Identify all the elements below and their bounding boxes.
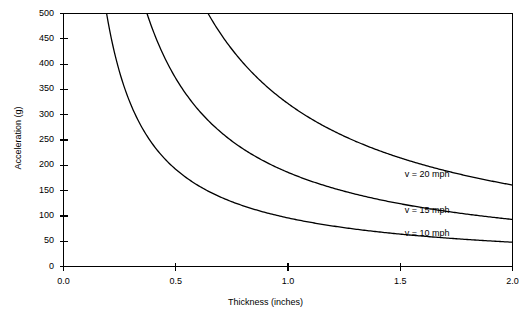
x-tick-label: 2.0 [493, 276, 531, 286]
series-label: v = 10 mph [405, 228, 450, 238]
y-tick-label: 0 [14, 261, 54, 271]
x-axis-title: Thickness (inches) [0, 297, 531, 307]
series-label: v = 15 mph [405, 205, 450, 215]
y-tick-label: 250 [14, 134, 54, 144]
y-tick-label: 400 [14, 58, 54, 68]
y-tick-label: 100 [14, 210, 54, 220]
acceleration-vs-thickness-chart: Acceleration (g) Thickness (inches) 0501… [0, 0, 531, 316]
y-tick-label: 350 [14, 83, 54, 93]
chart-background [0, 0, 531, 316]
x-tick-label: 1.5 [380, 276, 420, 286]
plot-area [0, 0, 531, 316]
y-tick-label: 200 [14, 159, 54, 169]
y-tick-label: 50 [14, 235, 54, 245]
y-tick-label: 450 [14, 33, 54, 43]
x-tick-label: 0.5 [156, 276, 196, 286]
y-tick-label: 150 [14, 185, 54, 195]
x-tick-label: 1.0 [268, 276, 308, 286]
y-tick-label: 500 [14, 8, 54, 18]
series-label: v = 20 mph [405, 169, 450, 179]
y-tick-label: 300 [14, 109, 54, 119]
x-tick-label: 0.0 [44, 276, 84, 286]
